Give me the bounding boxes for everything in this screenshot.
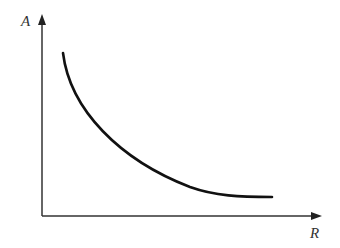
x-axis-arrow-icon (311, 212, 322, 220)
data-curve (63, 53, 272, 197)
y-axis-arrow-icon (38, 14, 46, 25)
x-axis-label: R (310, 225, 319, 242)
chart: A R (0, 0, 340, 248)
chart-plot (0, 0, 340, 248)
y-axis-label: A (21, 13, 30, 30)
